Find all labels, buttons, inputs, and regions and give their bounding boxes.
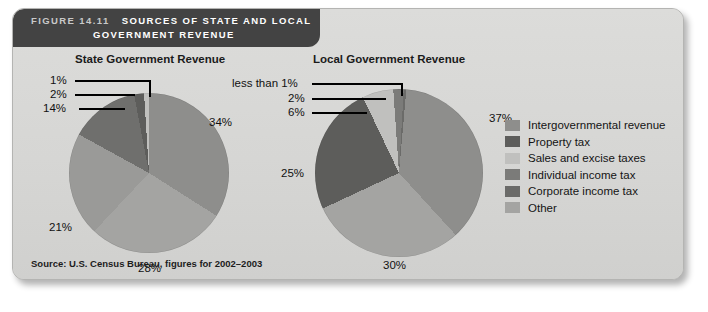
state-slice-label-1: 1% <box>50 74 67 86</box>
state-leader-line-1 <box>75 80 151 82</box>
figure-number: FIGURE 14.11 <box>31 15 110 26</box>
local-slice-label-2: 2% <box>288 92 305 104</box>
local-leader-line-lt1 <box>312 83 403 85</box>
legend-swatch-icon <box>505 136 520 147</box>
legend-label: Sales and excise taxes <box>528 152 646 164</box>
legend-item-intergovernmental-revenue: Intergovernmental revenue <box>505 117 665 134</box>
figure-title-line-1: FIGURE 14.11 SOURCES OF STATE AND LOCAL <box>31 14 320 28</box>
state-slice-label-14: 14% <box>43 102 66 114</box>
figure-title-part-2: GOVERNMENT REVENUE <box>93 29 235 40</box>
figure-title-line-2: GOVERNMENT REVENUE <box>31 28 320 42</box>
legend-swatch-icon <box>505 186 520 197</box>
local-slice-label-25: 25% <box>281 167 304 179</box>
local-government-pie-chart <box>315 89 483 257</box>
state-slice-label-21: 21% <box>49 221 72 233</box>
figure-content: State Government Revenue 34% 28% 21% 14%… <box>13 9 683 279</box>
state-slice-label-2: 2% <box>50 88 67 100</box>
legend-swatch-icon <box>505 169 520 180</box>
state-leader-line-14 <box>79 108 125 110</box>
legend-label: Other <box>528 202 557 214</box>
local-slice-label-6: 6% <box>288 106 305 118</box>
legend-item-other: Other <box>505 200 665 217</box>
legend-item-property-tax: Property tax <box>505 134 665 151</box>
figure-frame: State Government Revenue 34% 28% 21% 14%… <box>12 8 684 280</box>
legend: Intergovernmental revenue Property tax S… <box>505 117 665 216</box>
legend-item-individual-income-tax: Individual income tax <box>505 167 665 184</box>
legend-swatch-icon <box>505 120 520 131</box>
legend-label: Corporate income tax <box>528 185 638 197</box>
local-leader-line-6 <box>312 112 367 114</box>
legend-label: Property tax <box>528 136 590 148</box>
figure-title-bar: FIGURE 14.11 SOURCES OF STATE AND LOCAL … <box>13 9 320 47</box>
legend-swatch-icon <box>505 202 520 213</box>
legend-label: Intergovernmental revenue <box>528 119 665 131</box>
legend-item-corporate-income-tax: Corporate income tax <box>505 183 665 200</box>
local-slice-label-less-than-1: less than 1% <box>232 77 298 89</box>
legend-item-sales-and-excise-taxes: Sales and excise taxes <box>505 150 665 167</box>
state-leader-line-2 <box>75 94 135 96</box>
local-leader-line-2 <box>312 98 386 100</box>
local-chart-title: Local Government Revenue <box>313 53 465 65</box>
figure-title-part-1: SOURCES OF STATE AND LOCAL <box>122 15 312 26</box>
state-slice-label-34: 34% <box>209 116 232 128</box>
state-leader-line-1-stem <box>149 80 151 97</box>
legend-swatch-icon <box>505 153 520 164</box>
local-leader-line-lt1-stem <box>401 83 403 96</box>
state-government-pie-chart <box>69 93 229 253</box>
state-chart-title: State Government Revenue <box>75 53 225 65</box>
legend-label: Individual income tax <box>528 169 635 181</box>
local-slice-label-30: 30% <box>383 259 406 271</box>
source-note: Source: U.S. Census Bureau, figures for … <box>31 258 262 269</box>
